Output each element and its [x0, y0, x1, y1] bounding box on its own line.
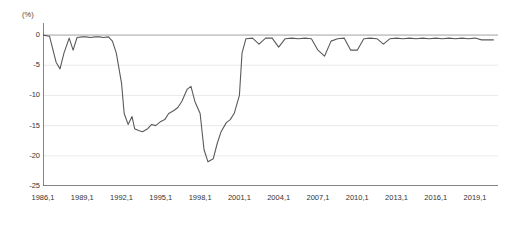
- x-tick-label: 2004,1: [267, 194, 290, 202]
- x-tick-label: 2007,1: [306, 194, 329, 202]
- y-tick-label: 0: [8, 31, 40, 39]
- x-tick-label: 1998,1: [189, 194, 212, 202]
- x-tick-label: 1989,1: [71, 194, 94, 202]
- y-axis-tick-labels: 0-5-10-15-20-25: [0, 23, 40, 186]
- y-tick-label: -20: [8, 152, 40, 160]
- x-tick-label: 1992,1: [110, 194, 133, 202]
- x-tick-label: 2013,1: [385, 194, 408, 202]
- x-tick-label: 2019,1: [464, 194, 487, 202]
- data-series-line: [43, 35, 493, 162]
- y-axis-unit-label: (%): [22, 10, 34, 19]
- x-tick-label: 2010,1: [346, 194, 369, 202]
- x-tick-label: 2001,1: [228, 194, 251, 202]
- y-tick-label: -15: [8, 122, 40, 130]
- y-tick-label: -25: [8, 182, 40, 190]
- x-tick-label: 1995,1: [149, 194, 172, 202]
- y-tick-label: -5: [8, 61, 40, 69]
- x-axis-tick-labels: 1986,11989,11992,11995,11998,12001,12004…: [43, 190, 498, 204]
- x-tick-label: 2016,1: [424, 194, 447, 202]
- x-tick-label: 1986,1: [32, 194, 55, 202]
- axis-lines: [43, 23, 498, 186]
- gridlines: [43, 35, 498, 186]
- y-tick-label: -10: [8, 91, 40, 99]
- plot-area: [43, 23, 498, 186]
- chart-container: (%) 0-5-10-15-20-25 1986,11989,11992,119…: [0, 0, 512, 226]
- line-chart-svg: [43, 23, 498, 186]
